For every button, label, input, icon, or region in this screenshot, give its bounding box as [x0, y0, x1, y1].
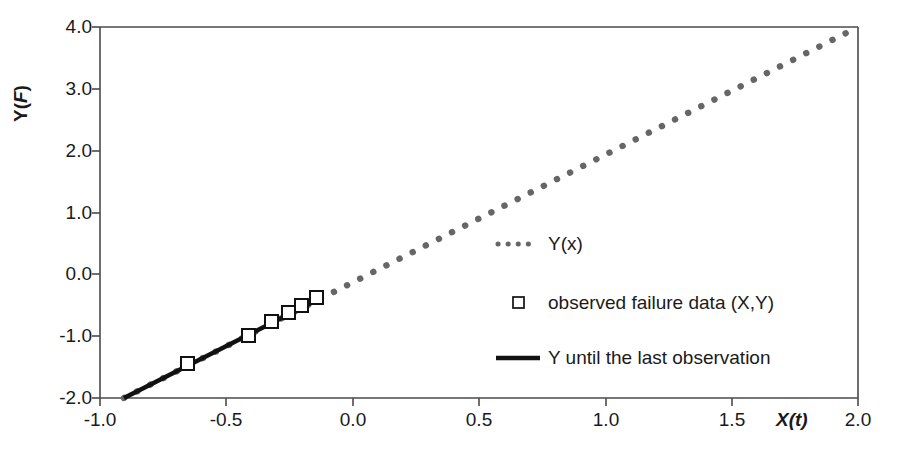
data-point-marker	[295, 299, 308, 312]
data-point-marker	[282, 306, 295, 319]
data-point-marker	[181, 357, 194, 370]
data-point-marker	[310, 291, 323, 304]
chart-figure: Y(F) 4.0 3.0 2.0 1.0 0.0 -1.0 -2.0 -1.0 …	[0, 0, 899, 457]
legend-swatch-open-square	[513, 297, 524, 308]
plot-frame	[100, 27, 858, 398]
y-axis-ticks	[92, 27, 100, 398]
data-point-marker	[265, 315, 278, 328]
data-point-marker	[242, 329, 255, 342]
plot-canvas	[0, 0, 899, 457]
x-axis-ticks	[100, 398, 858, 406]
